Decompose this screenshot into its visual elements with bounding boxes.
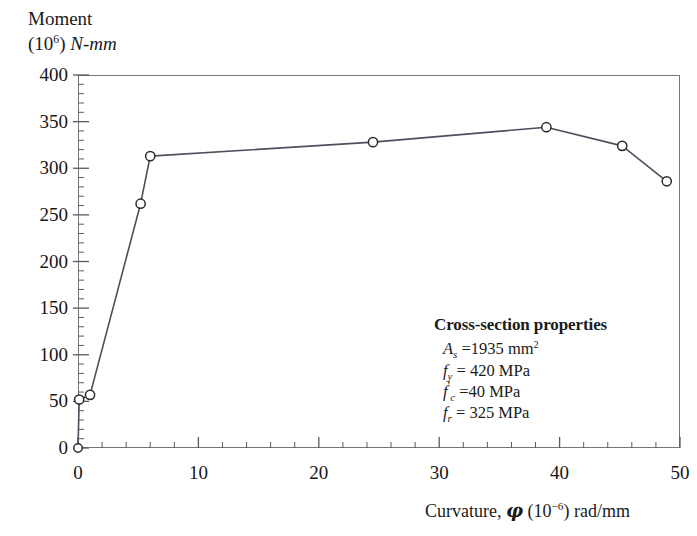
x-tick-label: 30 xyxy=(409,462,469,484)
data-point-marker xyxy=(85,390,94,399)
y-tick-label: 50 xyxy=(14,390,68,412)
x-tick-label: 10 xyxy=(168,462,228,484)
x-axis-exponent: −6 xyxy=(552,500,564,512)
data-point-marker xyxy=(542,123,551,132)
x-tick-label: 20 xyxy=(289,462,349,484)
y-tick-label: 400 xyxy=(14,64,68,86)
annotation-equals: = xyxy=(452,361,470,380)
data-point-marker xyxy=(146,152,155,161)
annotation-symbol: A xyxy=(443,339,453,358)
x-axis-title: Curvature, φ (10−6) rad/mm xyxy=(425,499,630,522)
annotation-exponent: 2 xyxy=(534,339,539,350)
cross-section-properties-annotation: Cross-section properties As =1935 mm2fy … xyxy=(434,314,607,424)
x-tick-label: 40 xyxy=(530,462,590,484)
y-tick-label: 150 xyxy=(14,297,68,319)
data-point-marker xyxy=(618,141,627,150)
y-tick-label: 250 xyxy=(14,204,68,226)
data-point-marker xyxy=(75,395,84,404)
annotation-rows: As =1935 mm2fy = 420 MPaf'c =40 MPafr = … xyxy=(434,338,607,424)
x-axis-paren-close: ) rad/mm xyxy=(563,501,629,521)
y-tick-label: 300 xyxy=(14,157,68,179)
annotation-equals: = xyxy=(452,403,470,422)
data-point-marker xyxy=(662,177,671,186)
annotation-value: 1935 mm xyxy=(471,339,534,358)
phi-symbol: φ xyxy=(506,499,523,521)
annotation-equals: = xyxy=(457,339,470,358)
data-point-marker xyxy=(368,138,377,147)
y-tick-label: 100 xyxy=(14,344,68,366)
x-tick-label: 50 xyxy=(650,462,697,484)
chart-canvas xyxy=(0,0,697,536)
annotation-value: 40 MPa xyxy=(469,382,521,401)
annotation-row: fr = 325 MPa xyxy=(434,402,607,423)
annotation-value: 325 MPa xyxy=(469,403,529,422)
x-axis-ticks xyxy=(78,437,680,448)
data-point-marker xyxy=(136,199,145,208)
x-axis-title-prefix: Curvature, xyxy=(425,501,506,521)
annotation-row: f'c =40 MPa xyxy=(434,381,607,402)
y-tick-label: 200 xyxy=(14,251,68,273)
moment-curvature-figure: Moment (106) N-mm 0501001502002503003504… xyxy=(0,0,697,536)
x-axis-paren-open: (10 xyxy=(523,501,552,521)
annotation-row: As =1935 mm2 xyxy=(434,338,607,359)
x-tick-label: 0 xyxy=(48,462,108,484)
y-tick-label: 350 xyxy=(14,111,68,133)
annotation-row: fy = 420 MPa xyxy=(434,360,607,381)
annotation-title: Cross-section properties xyxy=(434,314,607,336)
y-tick-label: 0 xyxy=(14,437,68,459)
annotation-value: 420 MPa xyxy=(470,361,530,380)
data-point-marker xyxy=(74,444,82,452)
annotation-equals: = xyxy=(455,382,468,401)
